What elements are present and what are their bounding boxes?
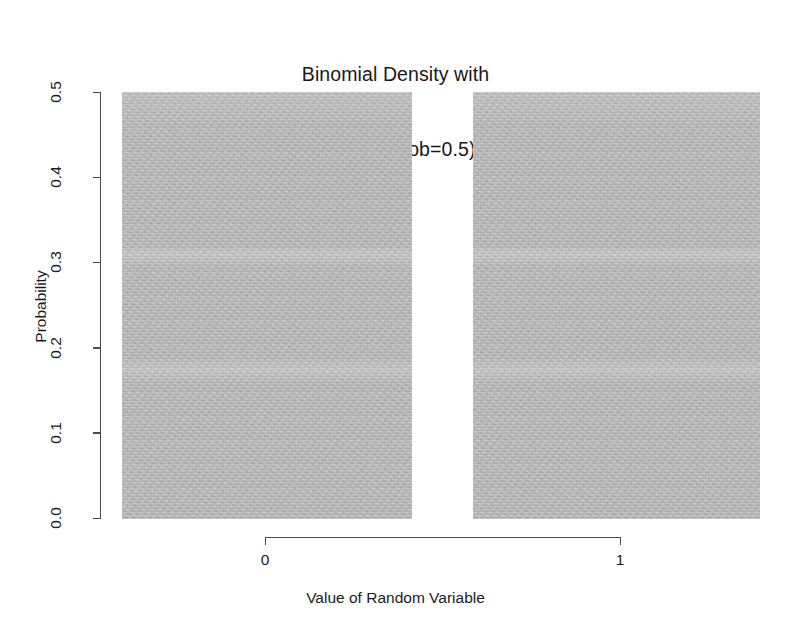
- y-axis-tick-label-1: 0.1: [48, 403, 64, 463]
- x-axis-line: [265, 537, 621, 538]
- y-axis-tick-3: [93, 262, 101, 263]
- x-axis-tick-label-0: 0: [240, 551, 290, 569]
- binomial-density-chart: Binomial Density with (size=1, prob=0.5)…: [0, 0, 791, 636]
- y-axis-line: [100, 92, 101, 519]
- y-axis-tick-label-2: 0.2: [48, 318, 64, 378]
- x-axis-tick-0: [265, 537, 266, 545]
- x-axis-title: Value of Random Variable: [0, 589, 791, 607]
- y-axis-tick-label-3: 0.3: [48, 232, 64, 292]
- y-axis-tick-label-0: 0.0: [48, 488, 64, 548]
- y-axis-tick-label-4: 0.4: [48, 147, 64, 207]
- bar-category-1: [473, 92, 760, 519]
- y-axis-tick-4: [93, 177, 101, 178]
- y-axis-tick-2: [93, 347, 101, 348]
- y-axis-tick-5: [93, 92, 101, 93]
- y-axis-tick-label-5: 0.5: [48, 62, 64, 122]
- bar-category-0: [122, 92, 412, 519]
- x-axis-tick-label-1: 1: [595, 551, 645, 569]
- x-axis-tick-1: [620, 537, 621, 545]
- y-axis-tick-0: [93, 518, 101, 519]
- y-axis-title: Probability: [32, 237, 49, 377]
- chart-title-line-1: Binomial Density with: [0, 62, 791, 87]
- y-axis-tick-1: [93, 432, 101, 433]
